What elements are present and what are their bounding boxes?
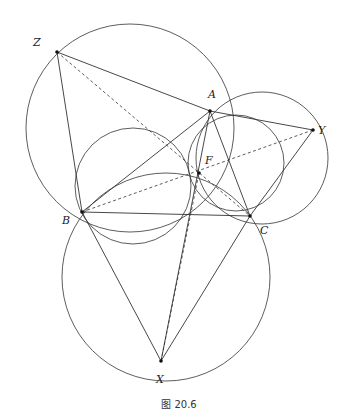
segment-ZB (57, 52, 82, 212)
label-Y: Y (318, 124, 327, 137)
point-F (197, 171, 201, 175)
point-Z (55, 50, 59, 54)
points-group (55, 50, 315, 363)
segment-AB (82, 111, 210, 212)
segment-AC (210, 111, 250, 216)
point-Y (311, 128, 315, 132)
point-labels-group: ZAYFBCX (32, 36, 327, 386)
circles-group (26, 24, 328, 381)
label-X: X (155, 373, 165, 386)
segment-CX (161, 216, 250, 361)
label-F: F (204, 154, 213, 167)
segment-AY (210, 111, 313, 130)
label-C: C (260, 224, 269, 237)
dashed-segment-ZC (57, 52, 250, 216)
circle-BCX (62, 173, 270, 381)
geometry-figure: ZAYFBCX (0, 0, 358, 400)
figure-caption: 图 20.6 (0, 396, 358, 411)
segment-BX (82, 212, 161, 361)
segment-YC (250, 130, 313, 216)
solid-segments-group (57, 52, 313, 361)
point-A (208, 109, 212, 113)
segment-ZA (57, 52, 210, 111)
segment-AX (161, 111, 210, 361)
point-B (80, 210, 84, 214)
dashed-segments-group (57, 52, 313, 361)
label-Z: Z (32, 36, 41, 49)
circle-AFB (75, 128, 191, 244)
dashed-segment-XF (161, 173, 199, 361)
point-C (248, 214, 252, 218)
point-X (159, 359, 163, 363)
label-A: A (207, 88, 216, 101)
label-B: B (61, 214, 70, 227)
